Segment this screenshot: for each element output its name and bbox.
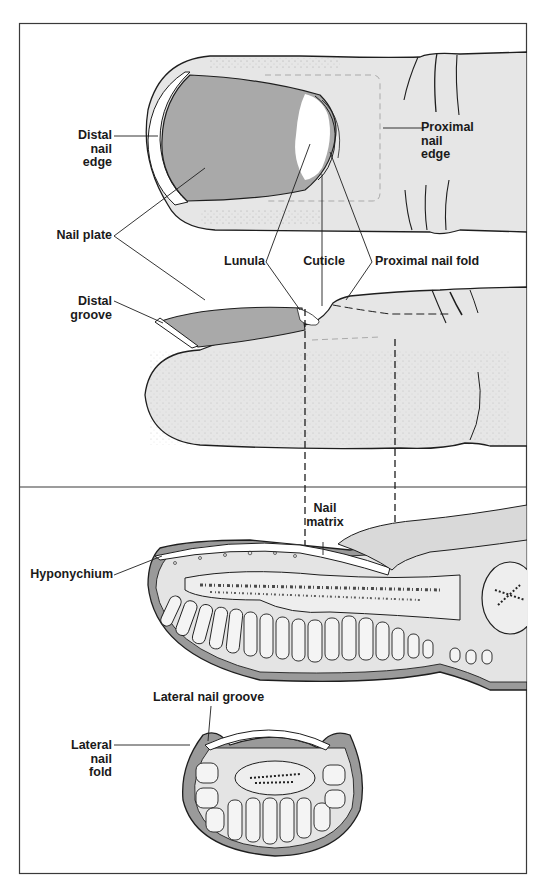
label-distal-nail-edge: Distal nail edge	[40, 129, 112, 170]
label-lateral-nail-groove: Lateral nail groove	[153, 691, 303, 705]
longitudinal-section	[148, 505, 538, 690]
label-lunula: Lunula	[200, 255, 265, 269]
label-lateral-nail-fold: Lateral nail fold	[40, 739, 112, 780]
label-nail-plate: Nail plate	[20, 229, 112, 243]
label-proximal-nail-fold: Proximal nail fold	[375, 255, 525, 269]
transverse-section	[183, 730, 363, 856]
label-distal-groove: Distal groove	[40, 295, 112, 322]
label-cuticle: Cuticle	[295, 255, 353, 269]
label-proximal-nail-edge: Proximal nail edge	[421, 121, 521, 162]
lateral-finger-view	[145, 287, 527, 449]
label-hyponychium: Hyponychium	[20, 568, 113, 582]
label-nail-matrix: Nail matrix	[300, 502, 350, 529]
